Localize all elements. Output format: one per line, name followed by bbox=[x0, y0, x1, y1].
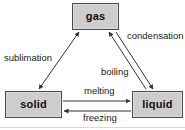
edge-label-sublimation: sublimation bbox=[4, 53, 52, 63]
state-node-gas-label: gas bbox=[86, 11, 106, 22]
phase-change-diagram: gas solid liquid sublimation condensatio… bbox=[0, 0, 185, 130]
edge-label-freezing: freezing bbox=[83, 113, 117, 123]
edge-label-condensation: condensation bbox=[127, 31, 184, 41]
state-node-solid-label: solid bbox=[20, 99, 47, 110]
state-node-liquid: liquid bbox=[132, 91, 183, 118]
state-node-liquid-label: liquid bbox=[142, 99, 173, 110]
state-node-solid: solid bbox=[5, 91, 62, 118]
bottom-divider bbox=[0, 127, 185, 128]
edge-label-melting: melting bbox=[84, 86, 115, 96]
edge-label-boiling: boiling bbox=[101, 67, 128, 77]
state-node-gas: gas bbox=[72, 3, 119, 30]
